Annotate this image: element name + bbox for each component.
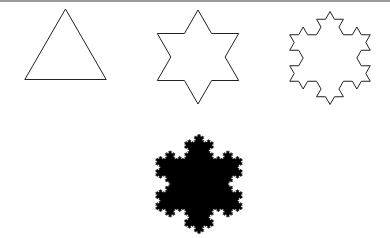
triangle-shape	[25, 9, 106, 80]
filled-snowflake-shape	[156, 134, 243, 234]
koch-figure	[0, 0, 390, 238]
star-shape	[157, 10, 238, 104]
koch-level2-shape	[290, 12, 371, 105]
